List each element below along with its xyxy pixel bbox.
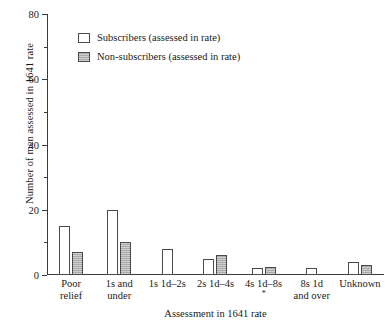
x-tick-label: Poorrelief xyxy=(47,278,95,301)
x-tick-label: 1s 1d–2s xyxy=(143,278,191,301)
legend: Subscribers (assessed in rate) Non-subsc… xyxy=(78,30,240,68)
y-tick-label: 40 xyxy=(29,139,40,150)
bar-group xyxy=(336,14,384,275)
y-tick-label: 60 xyxy=(29,74,40,85)
bar-subscribers xyxy=(306,268,317,275)
y-axis-title: Number of men assessed in 1641 rate xyxy=(24,14,35,234)
legend-item-non-subscribers: Non-subscribers (assessed in rate) xyxy=(78,49,240,64)
bar-subscribers xyxy=(252,268,263,275)
x-tick-label: 8s 1dand over xyxy=(288,278,336,301)
bar-group xyxy=(240,14,288,275)
bar-subscribers xyxy=(107,210,118,275)
legend-swatch-subscribers-icon xyxy=(78,33,90,43)
bar-non-subscribers xyxy=(120,242,131,275)
bar-subscribers xyxy=(348,262,359,275)
x-tick-label: 4s 1d–8s* xyxy=(240,278,288,301)
x-tick-label: 2s 1d–4s xyxy=(191,278,239,301)
bar-group xyxy=(288,14,336,275)
footnote-marker: * xyxy=(240,290,288,298)
x-axis-labels: Poorrelief1s andunder1s 1d–2s2s 1d–4s4s … xyxy=(47,278,384,301)
bar-subscribers xyxy=(162,249,173,275)
legend-swatch-non-subscribers-icon xyxy=(78,52,90,62)
bar-chart: Number of men assessed in 1641 rate 0204… xyxy=(0,0,391,327)
y-tick-major xyxy=(42,275,47,276)
bar-non-subscribers xyxy=(265,267,276,275)
legend-item-subscribers: Subscribers (assessed in rate) xyxy=(78,30,240,45)
y-tick-label: 20 xyxy=(29,204,40,215)
legend-label-subscribers: Subscribers (assessed in rate) xyxy=(97,32,220,43)
x-axis-title: Assessment in 1641 rate xyxy=(47,308,384,319)
x-tick-label: 1s andunder xyxy=(95,278,143,301)
bar-subscribers xyxy=(203,259,214,275)
bar-non-subscribers xyxy=(72,252,83,275)
y-tick-label: 80 xyxy=(29,9,40,20)
bar-subscribers xyxy=(59,226,70,275)
bar-non-subscribers xyxy=(216,255,227,275)
bar-non-subscribers xyxy=(361,265,372,275)
y-tick-label: 0 xyxy=(34,270,39,281)
x-tick-label: Unknown xyxy=(336,278,384,301)
legend-label-non-subscribers: Non-subscribers (assessed in rate) xyxy=(97,51,240,62)
